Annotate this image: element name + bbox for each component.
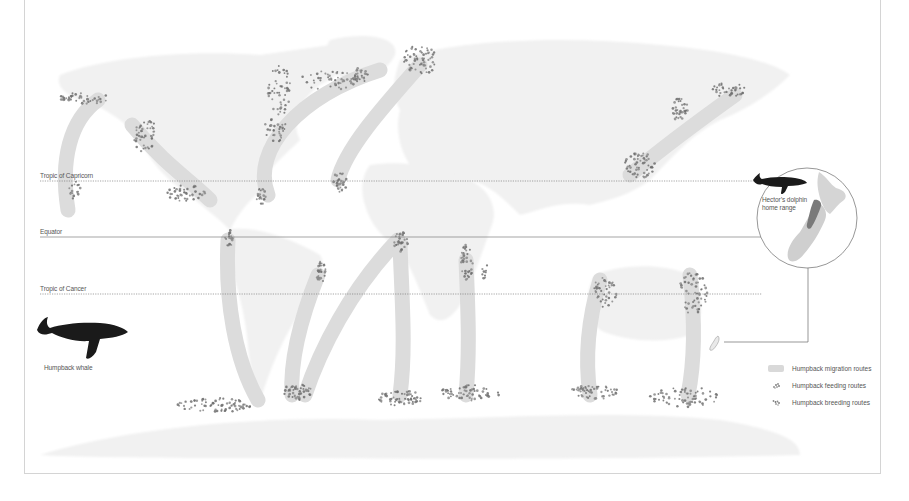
cluster-mozambique	[481, 264, 488, 279]
cluster-antarctic-1	[177, 397, 251, 413]
legend-label: Humpback migration routes	[792, 365, 871, 372]
hectors-dolphin-label-line2: home range	[762, 204, 807, 212]
new-zealand-inset	[753, 168, 857, 268]
world-migration-map	[0, 0, 909, 501]
legend-item-migration: Humpback migration routes	[768, 365, 871, 372]
legend-label: Humpback feeding routes	[792, 382, 866, 389]
inset-connector	[724, 268, 808, 342]
route-south-atlantic-africa	[400, 245, 403, 395]
hectors-dolphin-label: Hector’s dolphin home range	[762, 196, 807, 212]
tropic-cancer-label: Tropic of Cancer	[40, 285, 86, 292]
legend-label: Humpback breeding routes	[792, 399, 870, 406]
equator-label: Equator	[40, 228, 62, 235]
tropic-capricorn-label: Tropic of Capricorn	[40, 172, 93, 179]
humpback-whale-icon	[37, 317, 128, 359]
legend-item-feeding: Humpback feeding routes	[768, 382, 866, 389]
new-zealand-on-map	[710, 336, 719, 350]
breeding-dots-icon	[772, 399, 781, 406]
route-swatch-icon	[768, 365, 784, 372]
legend-item-breeding: Humpback breeding routes	[768, 399, 870, 406]
land-antarctica	[40, 415, 800, 459]
humpback-whale-label: Humpback whale	[44, 364, 92, 371]
feeding-dots-icon	[772, 382, 781, 389]
hectors-dolphin-label-line1: Hector’s dolphin	[762, 196, 807, 204]
